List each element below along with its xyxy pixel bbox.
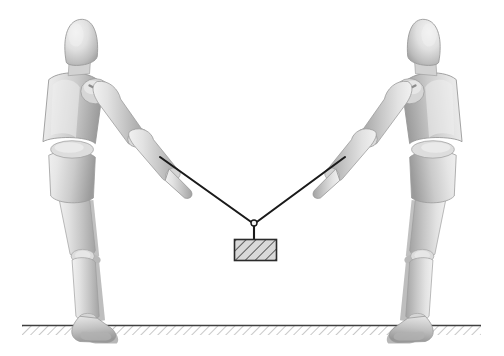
mannequin-left <box>43 19 192 343</box>
rope-left <box>160 157 254 224</box>
rope-junction-knot <box>251 220 257 226</box>
hanging-block <box>235 240 277 261</box>
diagram-svg <box>0 0 504 356</box>
block-body <box>235 240 277 261</box>
rope-right <box>254 157 345 224</box>
mannequin-right <box>313 19 462 343</box>
diagram-canvas <box>0 0 504 356</box>
